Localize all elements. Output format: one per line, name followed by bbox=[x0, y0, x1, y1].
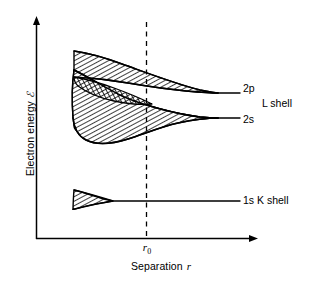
band-1s bbox=[73, 190, 113, 209]
x-axis-separation-symbol: r bbox=[183, 260, 191, 272]
band-diagram-figure: Electron energyℰ Separationr r0 2p L she… bbox=[0, 0, 319, 283]
y-axis-energy-symbol: ℰ bbox=[25, 92, 36, 101]
level-label-2p: 2p bbox=[243, 82, 255, 94]
y-axis-title: Electron energyℰ bbox=[24, 59, 36, 209]
x-axis-arrowhead bbox=[249, 235, 258, 242]
x-axis-title-text: Separation bbox=[131, 260, 183, 272]
x-axis-title: Separationr bbox=[96, 260, 226, 272]
y-axis-title-text: Electron energy bbox=[24, 101, 36, 176]
r0-subscript: 0 bbox=[147, 247, 151, 256]
y-axis-arrowhead bbox=[33, 16, 40, 25]
level-label-2s: 2s bbox=[243, 113, 254, 125]
level-label-1s-k-shell: 1s K shell bbox=[243, 194, 289, 206]
r0-tick-label: r0 bbox=[132, 241, 162, 256]
shell-label-l: L shell bbox=[262, 97, 292, 109]
